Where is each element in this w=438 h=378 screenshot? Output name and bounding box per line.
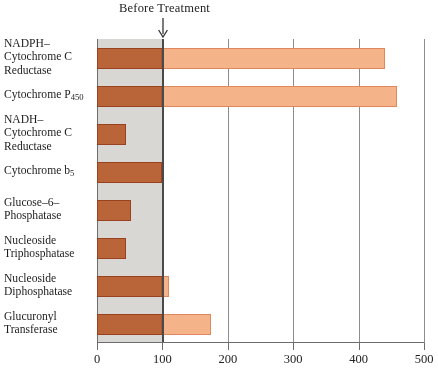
bar-baseline-overlay — [97, 86, 162, 107]
chart-title: Before Treatment — [119, 1, 210, 16]
tick-200 — [228, 343, 229, 350]
tick-label-200: 200 — [218, 352, 237, 367]
bar-row — [97, 314, 424, 335]
category-label: NADPH–Cytochrome CReductase — [4, 37, 94, 77]
bar-row — [97, 200, 424, 221]
bar-row — [97, 124, 424, 145]
bar-baseline-overlay — [97, 124, 126, 145]
baseline-100-line — [162, 39, 163, 343]
category-label: NucleosideTriphosphatase — [4, 234, 94, 261]
tick-0 — [97, 343, 98, 350]
tick-label-500: 500 — [415, 352, 434, 367]
plot-area — [97, 39, 424, 343]
bar-baseline-overlay — [97, 276, 162, 297]
tick-label-100: 100 — [153, 352, 172, 367]
bar-row — [97, 276, 424, 297]
bar-row — [97, 48, 424, 69]
bar-baseline-overlay — [97, 162, 162, 183]
bar-row — [97, 162, 424, 183]
tick-label-400: 400 — [349, 352, 368, 367]
x-axis-line — [97, 342, 424, 343]
bar-baseline-overlay — [97, 238, 126, 259]
tick-100 — [162, 343, 163, 350]
bar-baseline-overlay — [97, 48, 162, 69]
tick-label-300: 300 — [284, 352, 303, 367]
tick-400 — [359, 343, 360, 350]
tick-300 — [293, 343, 294, 350]
tick-500 — [424, 343, 425, 350]
category-label: GlucuronylTransferase — [4, 310, 94, 337]
category-label: NADH–Cytochrome CReductase — [4, 113, 94, 153]
down-arrow-icon — [157, 18, 169, 38]
bar-row — [97, 86, 424, 107]
category-label: Cytochrome P450 — [4, 88, 94, 102]
bar-row — [97, 238, 424, 259]
bar-baseline-overlay — [97, 314, 162, 335]
gridline-500 — [424, 39, 425, 343]
category-label: Glucose–6–Phosphatase — [4, 196, 94, 223]
tick-label-0: 0 — [94, 352, 100, 367]
category-label: Cytochrome b5 — [4, 164, 94, 178]
enzyme-activity-bar-chart: Before Treatment 0100200300400500 NADPH–… — [0, 0, 438, 378]
category-label: NucleosideDiphosphatase — [4, 272, 94, 299]
bar-baseline-overlay — [97, 200, 131, 221]
